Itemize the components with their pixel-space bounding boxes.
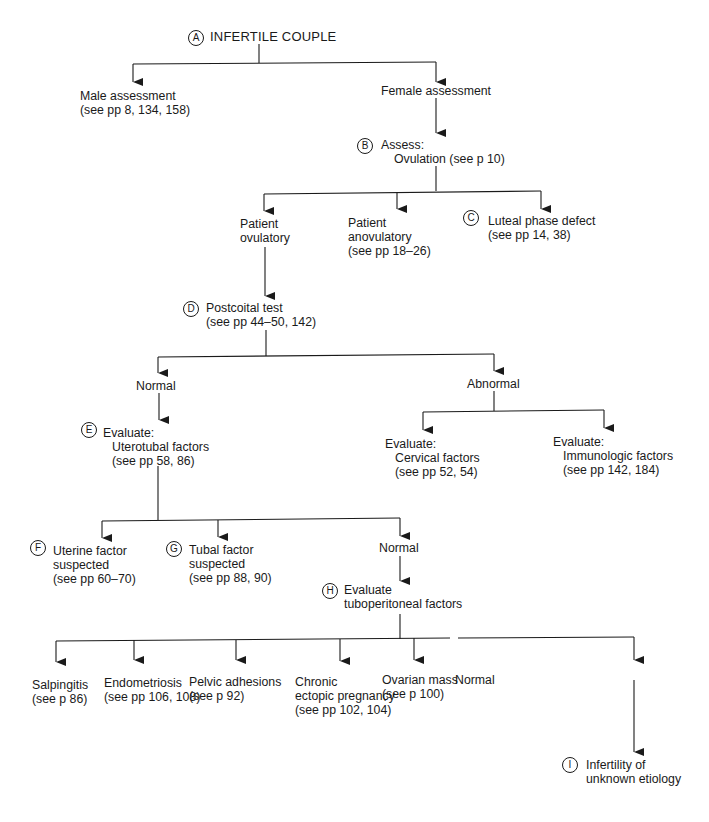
node-male-assessment: Male assessment (see pp 8, 134, 158) <box>80 89 190 117</box>
node-label: Evaluate: <box>553 435 673 449</box>
node-infertile-couple: A INFERTILE COUPLE <box>188 30 337 44</box>
node-label: ectopic pregnancy <box>295 689 395 703</box>
node-label: tuboperitoneal factors <box>322 597 462 611</box>
step-badge-d: D <box>183 301 199 317</box>
node-endometriosis: Endometriosis (see pp 106, 108) <box>104 676 200 704</box>
node-reference: (see pp 14, 38) <box>463 228 595 242</box>
node-reference: Ovulation (see p 10) <box>357 152 505 166</box>
node-title: INFERTILE COUPLE <box>188 30 337 44</box>
node-reference: (see pp 88, 90) <box>166 571 272 585</box>
node-label: Evaluate: <box>385 437 480 451</box>
node-reference: (see pp 60–70) <box>30 572 136 586</box>
node-label: Endometriosis <box>104 676 200 690</box>
node-reference: (see pp 8, 134, 158) <box>80 103 190 117</box>
step-badge-h: H <box>322 583 338 599</box>
node-label: Chronic <box>295 675 395 689</box>
node-label: Evaluate: <box>81 426 209 440</box>
node-evaluate-cervical: Evaluate: Cervical factors (see pp 52, 5… <box>385 437 480 479</box>
node-label: Normal <box>136 379 176 393</box>
node-uterine-factor: F Uterine factor suspected (see pp 60–70… <box>30 540 136 582</box>
node-reference: (see p 86) <box>32 692 88 706</box>
node-chronic-ectopic-pregnancy: Chronic ectopic pregnancy (see pp 102, 1… <box>295 675 395 717</box>
node-label: Normal <box>379 541 419 555</box>
node-unknown-etiology: I Infertility of unknown etiology <box>562 757 681 785</box>
node-label: Patient <box>348 216 431 230</box>
node-luteal-phase-defect: C Luteal phase defect (see pp 14, 38) <box>463 210 595 238</box>
node-reference: (see pp 58, 86) <box>81 454 209 468</box>
node-label: ovulatory <box>240 231 290 245</box>
node-label: Luteal phase defect <box>463 214 595 228</box>
node-normal-uterotubal: Normal <box>379 541 419 555</box>
node-evaluate-immunologic: Evaluate: Immunologic factors (see pp 14… <box>553 435 673 477</box>
node-postcoital-test: D Postcoital test (see pp 44–50, 142) <box>183 301 316 329</box>
node-reference: (see pp 142, 184) <box>553 463 673 477</box>
node-label: Normal <box>455 673 495 687</box>
node-normal-tuboperitoneal: Normal <box>455 673 495 687</box>
node-female-assessment: Female assessment <box>381 84 491 98</box>
node-label: Cervical factors <box>385 451 480 465</box>
node-label: Assess: <box>357 138 505 152</box>
node-reference: (see p 92) <box>189 689 281 703</box>
node-label: Infertility of <box>562 758 681 772</box>
node-label: Abnormal <box>467 377 520 391</box>
node-evaluate-uterotubal: E Evaluate: Uterotubal factors (see pp 5… <box>81 422 209 464</box>
node-label: Pelvic adhesions <box>189 675 281 689</box>
node-evaluate-tuboperitoneal: H Evaluate tuboperitoneal factors <box>322 583 462 611</box>
node-abnormal-postcoital: Abnormal <box>467 377 520 391</box>
step-badge-a: A <box>188 30 204 46</box>
node-patient-anovulatory: Patient anovulatory (see pp 18–26) <box>348 216 431 258</box>
node-reference: (see p 100) <box>382 687 458 701</box>
node-label: Postcoital test <box>183 301 316 315</box>
node-reference: (see pp 106, 108) <box>104 690 200 704</box>
node-label: Female assessment <box>381 84 491 98</box>
node-pelvic-adhesions: Pelvic adhesions (see p 92) <box>189 675 281 703</box>
node-reference: (see pp 44–50, 142) <box>183 315 316 329</box>
node-salpingitis: Salpingitis (see p 86) <box>32 678 88 706</box>
node-tubal-factor: G Tubal factor suspected (see pp 88, 90) <box>166 541 272 583</box>
node-label: Uterotubal factors <box>81 440 209 454</box>
node-label: Patient <box>240 217 290 231</box>
node-label: anovulatory <box>348 230 431 244</box>
node-label: Male assessment <box>80 89 190 103</box>
node-label: Salpingitis <box>32 678 88 692</box>
node-reference: (see pp 18–26) <box>348 244 431 258</box>
node-label: unknown etiology <box>562 772 681 786</box>
node-label: Ovarian mass <box>382 673 458 687</box>
node-label: Immunologic factors <box>553 449 673 463</box>
node-reference: (see pp 102, 104) <box>295 703 395 717</box>
node-normal-postcoital: Normal <box>136 379 176 393</box>
node-label: suspected <box>166 557 272 571</box>
step-badge-b: B <box>357 138 373 154</box>
node-label: Tubal factor <box>166 543 272 557</box>
node-reference: (see pp 52, 54) <box>385 465 480 479</box>
node-label: Uterine factor <box>30 544 136 558</box>
node-patient-ovulatory: Patient ovulatory <box>240 217 290 245</box>
node-assess-ovulation: B Assess: Ovulation (see p 10) <box>357 138 505 166</box>
node-label: suspected <box>30 558 136 572</box>
node-ovarian-mass: Ovarian mass (see p 100) <box>382 673 458 701</box>
node-label: Evaluate <box>322 583 462 597</box>
